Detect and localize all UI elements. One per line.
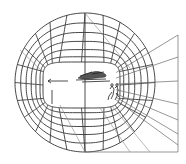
figures-sketch bbox=[108, 84, 119, 100]
grid-radial bbox=[111, 22, 120, 63]
diagonal-guide bbox=[112, 106, 150, 152]
cloud-sketch bbox=[76, 72, 110, 83]
grid-radial bbox=[59, 15, 67, 62]
diagram-canvas bbox=[0, 0, 186, 164]
grid-radial bbox=[111, 107, 120, 143]
grid-ring bbox=[43, 62, 120, 108]
grid-radial bbox=[103, 15, 104, 62]
grid-radial bbox=[82, 13, 86, 62]
grid-radial bbox=[50, 107, 52, 143]
projection-ray bbox=[116, 81, 178, 84]
diagonal-guide bbox=[85, 13, 130, 68]
grid-radial bbox=[82, 108, 86, 152]
grid-radial bbox=[50, 22, 52, 63]
projection-ray bbox=[116, 97, 178, 134]
grid-radial bbox=[119, 65, 152, 72]
grid-radial bbox=[115, 33, 134, 65]
grid-radial bbox=[17, 98, 43, 100]
perspective-diagram bbox=[0, 0, 186, 164]
grid-radial bbox=[59, 108, 67, 150]
diagonal-guide bbox=[60, 105, 85, 152]
grid-radial bbox=[15, 83, 43, 86]
grid-radial bbox=[119, 98, 152, 100]
left-arrow bbox=[48, 79, 68, 104]
